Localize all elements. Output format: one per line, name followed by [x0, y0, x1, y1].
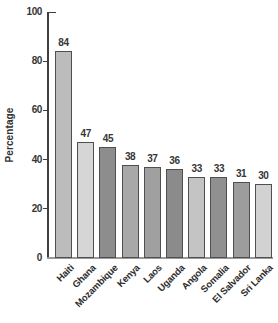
bar-el-salvador — [233, 182, 250, 258]
bar-chart-figure: Percentage 02040608010084Haiti47Ghana45M… — [0, 0, 278, 323]
y-axis-tick — [43, 159, 47, 160]
bar-value-label: 45 — [93, 133, 123, 145]
bar-somalia — [210, 177, 227, 258]
bar-value-label: 84 — [49, 37, 79, 49]
bar-value-label: 30 — [248, 170, 278, 182]
bar-angola — [188, 177, 205, 258]
y-axis-tick-label: 100 — [12, 6, 42, 18]
y-axis-tick-label: 40 — [12, 154, 42, 166]
bar-mozambique — [99, 147, 116, 258]
x-axis-category-label: Kenya — [115, 262, 142, 289]
bar-laos — [144, 167, 161, 258]
bar-haiti — [55, 51, 72, 258]
y-axis-tick-label: 0 — [12, 252, 42, 264]
y-axis-tick-label: 20 — [12, 203, 42, 215]
y-axis-top-tick — [48, 12, 56, 13]
y-axis-tick — [43, 110, 47, 111]
y-axis-tick — [43, 208, 47, 209]
bar-kenya — [122, 165, 139, 259]
bar-sri-lanka — [255, 184, 272, 258]
y-axis-tick — [43, 61, 47, 62]
y-axis-tick-label: 60 — [12, 104, 42, 116]
bar-uganda — [166, 169, 183, 258]
bar-ghana — [77, 142, 94, 258]
y-axis-tick-label: 80 — [12, 55, 42, 67]
y-axis-title: Percentage — [4, 12, 16, 258]
